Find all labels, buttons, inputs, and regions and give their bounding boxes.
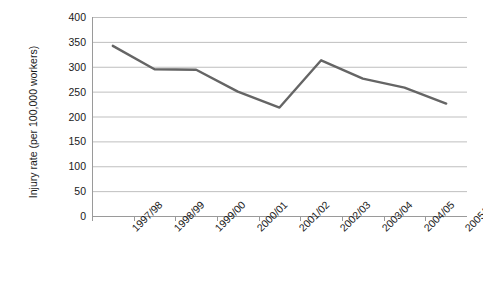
x-tick-label: 2002/03 xyxy=(338,226,345,233)
x-tick-label: 1999/00 xyxy=(213,226,220,233)
x-axis-tick-labels: 1997/981998/991999/002000/012001/022002/… xyxy=(0,0,483,290)
x-tick-label: 2005/06p xyxy=(463,226,470,233)
line-chart: Injury rate (per 100,000 workers) 050100… xyxy=(0,0,483,290)
x-tick-label: 2004/05 xyxy=(422,226,429,233)
x-tick-label: 2001/02 xyxy=(297,226,304,233)
x-tick-label: 1998/99 xyxy=(172,226,179,233)
x-tick-label: 2003/04 xyxy=(380,226,387,233)
x-tick-label: 1997/98 xyxy=(130,226,137,233)
x-tick-label: 2000/01 xyxy=(255,226,262,233)
